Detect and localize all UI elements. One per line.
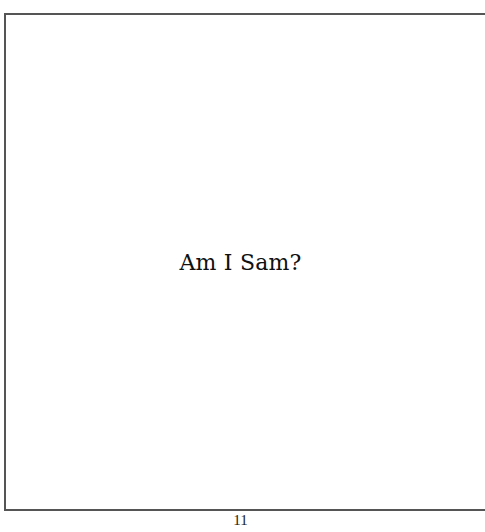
page-text: Am I Sam? xyxy=(0,250,481,275)
page-number: 11 xyxy=(0,512,481,529)
